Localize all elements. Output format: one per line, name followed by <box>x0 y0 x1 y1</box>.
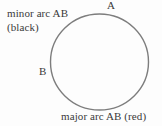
circle-outline <box>51 14 149 110</box>
circle-arc-figure: minor arc AB (black) A B major arc AB (r… <box>0 0 162 126</box>
major-arc-label: major arc AB (red) <box>61 111 146 122</box>
point-b-label: B <box>39 66 46 77</box>
minor-arc-color-note: (black) <box>7 22 39 33</box>
point-a-label: A <box>107 0 115 11</box>
minor-arc-label: minor arc AB <box>7 8 68 19</box>
